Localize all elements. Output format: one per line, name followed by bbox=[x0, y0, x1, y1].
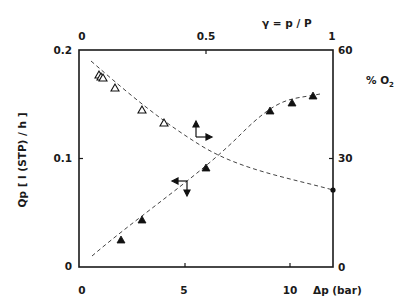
top-tick-0.5: 0.5 bbox=[197, 30, 216, 42]
left-tick-0.2: 0.2 bbox=[53, 44, 72, 56]
bottom-tick-5: 5 bbox=[180, 284, 187, 296]
top-tick-1: 1 bbox=[328, 30, 335, 42]
right-tick-60: 60 bbox=[338, 44, 353, 56]
left-tick-0: 0 bbox=[65, 260, 72, 272]
left-axis-title: Qp [ l (STP) / h ] bbox=[16, 113, 28, 208]
bottom-axis-title: Δp (bar) bbox=[313, 284, 362, 296]
top-tick-0: 0 bbox=[78, 30, 85, 42]
right-axis-title: % O2 bbox=[366, 74, 394, 89]
o2-fit-curve bbox=[92, 94, 320, 256]
plot-frame bbox=[79, 50, 333, 267]
tick-marks bbox=[79, 50, 333, 267]
top-axis-title: γ = p / P bbox=[262, 17, 312, 29]
arrow-up-right-icon bbox=[193, 121, 212, 140]
open-triangle-marker bbox=[138, 106, 146, 113]
open-triangle-marker bbox=[160, 119, 168, 126]
open-triangle-marker bbox=[111, 84, 119, 91]
filled-triangle-marker bbox=[138, 216, 146, 223]
qp-endpoint-dot bbox=[330, 187, 335, 192]
right-tick-0: 0 bbox=[338, 261, 345, 273]
qp-markers bbox=[95, 71, 168, 126]
o2-markers bbox=[117, 92, 317, 243]
chart: 0 0.5 1 γ = p / P 0.2 0.1 0 Qp [ l (STP)… bbox=[0, 0, 405, 306]
right-tick-30: 30 bbox=[338, 152, 353, 164]
qp-fit-curve bbox=[91, 61, 333, 190]
right-axis-title-sub: 2 bbox=[389, 81, 394, 89]
bottom-tick-0: 0 bbox=[78, 284, 85, 296]
bottom-tick-10: 10 bbox=[283, 284, 298, 296]
right-axis-title-main: % O bbox=[366, 74, 389, 86]
filled-triangle-marker bbox=[117, 236, 125, 243]
left-tick-0.1: 0.1 bbox=[53, 152, 72, 164]
